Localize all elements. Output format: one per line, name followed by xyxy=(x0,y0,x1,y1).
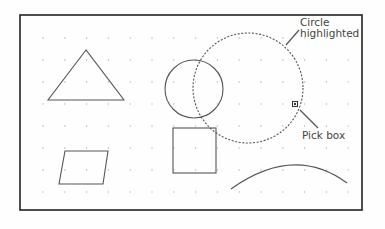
grid-dot xyxy=(108,191,109,192)
grid-dot xyxy=(348,103,349,104)
triangle-shape xyxy=(48,50,124,100)
circle-leader-line xyxy=(286,30,299,45)
grid-dot xyxy=(217,125,218,126)
grid-dot xyxy=(239,59,240,60)
grid-dot xyxy=(151,59,152,60)
grid-dot xyxy=(304,169,305,170)
grid-dot xyxy=(130,125,131,126)
grid-dot xyxy=(282,81,283,82)
arc-shape xyxy=(231,165,347,189)
grid-dot xyxy=(64,191,65,192)
grid-dot xyxy=(195,37,196,38)
grid-dot xyxy=(304,81,305,82)
grid-dot xyxy=(42,169,43,170)
grid-dot xyxy=(239,125,240,126)
grid-dot xyxy=(239,103,240,104)
grid-dot xyxy=(130,103,131,104)
grid-dot xyxy=(42,147,43,148)
grid-dot xyxy=(304,147,305,148)
grid-dot xyxy=(151,125,152,126)
shapes-layer xyxy=(48,33,347,189)
grid-dot xyxy=(326,59,327,60)
grid-dot xyxy=(108,59,109,60)
grid-dot xyxy=(260,169,261,170)
grid-dot xyxy=(260,103,261,104)
grid-dot xyxy=(260,125,261,126)
grid-dot xyxy=(326,81,327,82)
grid-dot xyxy=(108,147,109,148)
grid-dot xyxy=(348,191,349,192)
grid-dot xyxy=(64,103,65,104)
grid-dot xyxy=(173,125,174,126)
grid-dot xyxy=(260,81,261,82)
grid-dot xyxy=(42,191,43,192)
grid-dot xyxy=(282,103,283,104)
grid-dot xyxy=(130,59,131,60)
grid-dot xyxy=(239,81,240,82)
circle-highlighted-label-line2: highlighted xyxy=(300,28,359,39)
grid-dot xyxy=(282,125,283,126)
grid-dot xyxy=(239,147,240,148)
circle-highlighted-label: Circle highlighted xyxy=(300,17,359,39)
grid-dot xyxy=(217,191,218,192)
grid-dot xyxy=(151,169,152,170)
grid-dot xyxy=(108,125,109,126)
grid-dot xyxy=(86,59,87,60)
pick-box-label: Pick box xyxy=(302,130,345,141)
grid-dot xyxy=(260,59,261,60)
grid-dot xyxy=(260,191,261,192)
grid-dot xyxy=(195,125,196,126)
grid-dot xyxy=(282,191,283,192)
grid-dot xyxy=(239,169,240,170)
grid-dot xyxy=(195,147,196,148)
grid-dot xyxy=(86,147,87,148)
grid-dot xyxy=(86,37,87,38)
grid-dot xyxy=(173,59,174,60)
pick-box-center xyxy=(294,103,296,105)
grid-dot xyxy=(326,125,327,126)
grid-dot xyxy=(348,169,349,170)
grid-dot xyxy=(151,191,152,192)
grid-dot xyxy=(282,37,283,38)
grid-dot xyxy=(348,81,349,82)
grid-dot xyxy=(42,37,43,38)
grid-dot xyxy=(326,191,327,192)
grid-dot xyxy=(282,59,283,60)
grid-dot xyxy=(108,81,109,82)
grid-dot xyxy=(348,125,349,126)
grid-dot xyxy=(304,103,305,104)
grid-dot xyxy=(348,147,349,148)
grid-dot xyxy=(64,169,65,170)
grid-dot xyxy=(64,37,65,38)
grid-dot xyxy=(108,169,109,170)
grid-dot xyxy=(239,37,240,38)
circle-shape xyxy=(165,60,223,118)
grid-dot xyxy=(326,103,327,104)
grid-dot xyxy=(173,37,174,38)
grid-dot xyxy=(217,59,218,60)
grid-dot xyxy=(195,81,196,82)
grid-dot xyxy=(217,81,218,82)
grid-dot xyxy=(348,59,349,60)
grid-dot xyxy=(260,147,261,148)
grid-dot xyxy=(64,59,65,60)
grid-dot xyxy=(151,37,152,38)
grid-dot xyxy=(326,147,327,148)
grid-dot xyxy=(42,81,43,82)
grid-dot xyxy=(195,191,196,192)
grid-dot xyxy=(64,147,65,148)
drawing-frame xyxy=(20,15,362,210)
grid-dot xyxy=(64,125,65,126)
dot-grid xyxy=(42,37,349,192)
grid-dot xyxy=(86,125,87,126)
square-shape xyxy=(173,128,216,173)
grid-dot xyxy=(86,191,87,192)
grid-dot xyxy=(304,59,305,60)
grid-dot xyxy=(130,37,131,38)
grid-dot xyxy=(195,169,196,170)
grid-dot xyxy=(260,37,261,38)
grid-dot xyxy=(86,103,87,104)
grid-dot xyxy=(151,147,152,148)
grid-dot xyxy=(217,37,218,38)
grid-dot xyxy=(108,103,109,104)
